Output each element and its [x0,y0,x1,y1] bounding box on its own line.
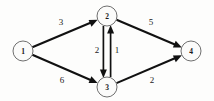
node-1-label: 1 [21,47,25,56]
node-2-label: 2 [105,12,109,21]
edge-weight-2-to-4: 5 [149,17,154,27]
node-3[interactable]: 3 [97,77,117,97]
node-3-label: 3 [105,83,109,92]
edge-2-to-4-line [117,20,178,46]
node-1[interactable]: 1 [13,41,33,61]
node-4-label: 4 [189,47,193,56]
edge-2-to-3 [100,26,107,78]
edge-weight-3-to-2: 1 [115,45,120,55]
edge-3-to-4-line [117,57,178,83]
edge-3-to-2 [107,25,114,77]
node-2[interactable]: 2 [97,6,117,26]
edge-1-to-2 [32,20,97,48]
edge-weight-1-to-2: 3 [59,17,64,27]
node-4[interactable]: 4 [181,41,201,61]
edge-weight-1-to-3: 6 [60,75,65,85]
edge-weight-2-to-3: 2 [95,45,100,55]
graph-diagram: 1 2 3 4 3 6 2 1 5 2 [0,0,214,101]
edge-1-to-3 [32,55,97,83]
graph-canvas-svg: 1 2 3 4 3 6 2 1 5 2 [0,0,214,101]
edge-weight-3-to-4: 2 [150,75,155,85]
